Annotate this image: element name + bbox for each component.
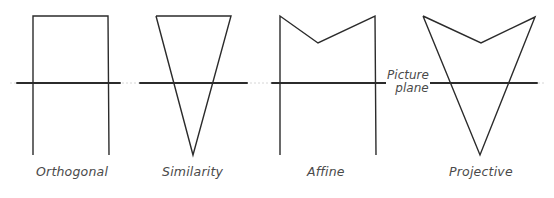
diagram-canvas: Orthogonal Similarity Affine Projective … [0, 0, 554, 198]
label-projective: Projective [449, 164, 513, 179]
figure-similarity [156, 16, 231, 155]
figure-orthogonal [33, 16, 109, 155]
picture-plane-label: Picture plane [386, 69, 430, 95]
figure-projective [423, 16, 535, 155]
picture-plane-label-line2: plane [387, 82, 429, 95]
figure-affine [280, 16, 376, 155]
label-affine: Affine [307, 164, 345, 179]
figure-shapes [33, 16, 535, 155]
label-similarity: Similarity [162, 164, 223, 179]
label-orthogonal: Orthogonal [36, 164, 108, 179]
